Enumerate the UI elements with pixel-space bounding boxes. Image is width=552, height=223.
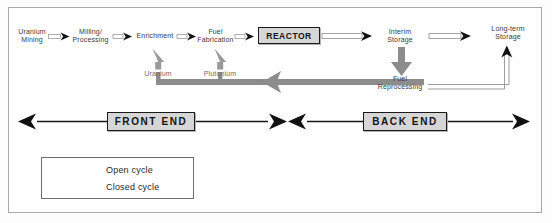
connector-interim-to-longterm — [429, 31, 471, 41]
closed-arrow-uranium-up — [153, 49, 165, 70]
connector-milling-to-enrichment — [113, 33, 132, 41]
closed-arrow-plutonium-up — [215, 49, 227, 70]
connector-reprocessing-to-longterm — [428, 46, 512, 90]
section-box-front-end[interactable]: FRONT END — [107, 112, 195, 131]
legend-label-closed-cycle: Closed cycle — [106, 182, 159, 192]
closed-arrow-interim-to-reprocessing — [391, 47, 412, 76]
stage-box-reactor[interactable]: REACTOR — [258, 27, 320, 44]
stage-label-fuel-reprocessing: Fuel Reprocessing — [369, 75, 431, 91]
fuel-cycle-diagram: Uranium Mining Milling/ Processing Enric… — [0, 0, 552, 223]
stage-label-milling-processing: Milling/ Processing — [66, 28, 115, 44]
stage-label-interim-storage: Interim Storage — [375, 28, 425, 44]
stage-label-fuel-fabrication: Fuel Fabrication — [192, 28, 239, 44]
legend-panel — [41, 157, 194, 199]
stage-label-enrichment: Enrichment — [131, 32, 179, 40]
stage-label-uranium-mining: Uranium Mining — [12, 28, 52, 44]
section-box-back-end[interactable]: BACK END — [363, 112, 447, 131]
stream-label-uranium: Uranium — [134, 70, 182, 78]
connector-reactor-to-interim — [322, 31, 372, 41]
stage-label-long-term-storage: Long-term Storage — [482, 25, 534, 41]
stream-label-plutonium: Plutonium — [194, 70, 246, 78]
legend-label-open-cycle: Open cycle — [106, 165, 153, 175]
